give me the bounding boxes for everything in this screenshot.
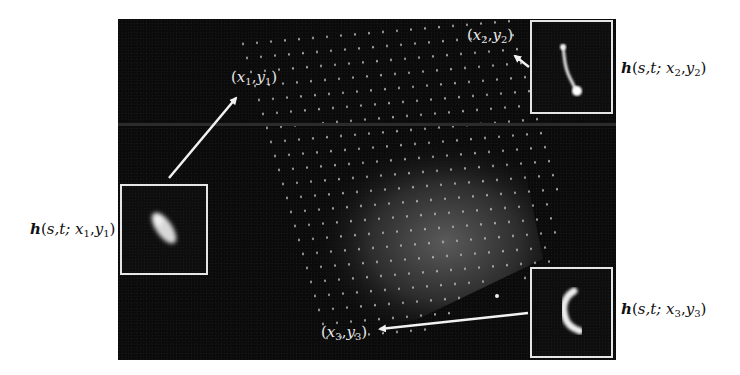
psf-streak-icon	[532, 22, 611, 112]
psf-label-1: h(s,t; x1,y1)	[30, 222, 115, 239]
psf-crescent-icon	[532, 269, 611, 356]
psf-label-2: h(s,t; x2,y2)	[621, 61, 706, 78]
scan-line-artifact	[118, 123, 616, 126]
psf-label-3: h(s,t; x3,y3)	[621, 302, 706, 319]
psf-blob-icon	[122, 186, 206, 273]
psf-inset-3	[530, 267, 613, 358]
point-label-3: (x3,y3)	[321, 325, 367, 342]
psf-inset-2	[530, 20, 613, 114]
point-label-2: (x2,y2)	[467, 28, 513, 45]
psf-inset-1	[120, 184, 208, 275]
point-label-1: (x1,y1)	[231, 70, 277, 87]
